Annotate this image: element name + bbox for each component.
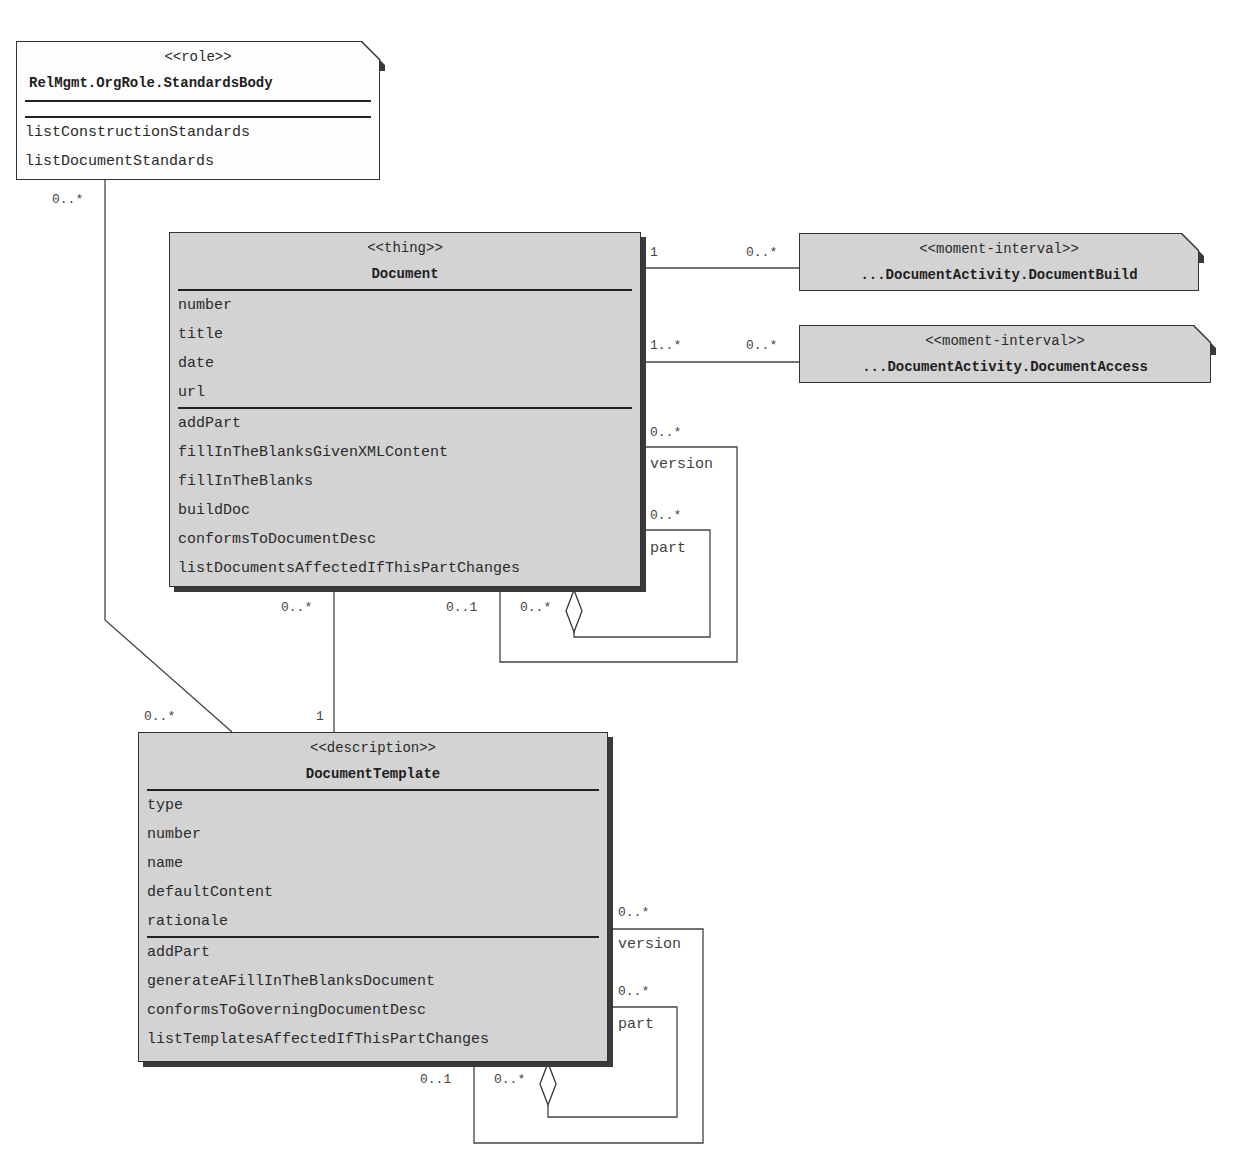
multiplicity-label: 1..* xyxy=(650,338,681,353)
attribute: name xyxy=(139,849,607,878)
operation: listDocumentsAffectedIfThisPartChanges xyxy=(170,554,640,583)
multiplicity-label: 0..* xyxy=(618,905,649,920)
multiplicity-label: 0..* xyxy=(520,600,551,615)
stereotype: <<moment-interval>> xyxy=(800,326,1210,354)
attribute: number xyxy=(170,291,640,320)
multiplicity-label: 0..* xyxy=(650,508,681,523)
class-name: DocumentTemplate xyxy=(139,761,607,789)
operation: fillInTheBlanks xyxy=(170,467,640,496)
class-name: ...DocumentActivity.DocumentBuild xyxy=(800,262,1198,290)
attribute: defaultContent xyxy=(139,878,607,907)
corner-shadow xyxy=(360,41,390,71)
class-document-template[interactable]: <<description>> DocumentTemplate type nu… xyxy=(138,732,608,1062)
operation: listTemplatesAffectedIfThisPartChanges xyxy=(139,1025,607,1054)
class-name: RelMgmt.OrgRole.StandardsBody xyxy=(17,70,379,98)
multiplicity-label: 0..* xyxy=(52,192,83,207)
multiplicity-label: 0..* xyxy=(144,709,175,724)
stereotype: <<thing>> xyxy=(170,233,640,261)
attribute: date xyxy=(170,349,640,378)
multiplicity-label: 1 xyxy=(650,245,658,260)
attribute: rationale xyxy=(139,907,607,936)
attribute: type xyxy=(139,791,607,820)
aggregation-diamond-icon xyxy=(540,1063,556,1105)
corner-shadow xyxy=(1180,233,1210,263)
stereotype: <<role>> xyxy=(17,42,379,70)
role-label: part xyxy=(618,1016,654,1033)
class-document-build[interactable]: <<moment-interval>> ...DocumentActivity.… xyxy=(799,233,1199,291)
multiplicity-label: 1 xyxy=(316,709,324,724)
class-standards-body[interactable]: <<role>> RelMgmt.OrgRole.StandardsBody l… xyxy=(16,41,380,180)
operation: fillInTheBlanksGivenXMLContent xyxy=(170,438,640,467)
operation: conformsToDocumentDesc xyxy=(170,525,640,554)
operation: addPart xyxy=(170,409,640,438)
operation: listDocumentStandards xyxy=(17,147,379,176)
operation: buildDoc xyxy=(170,496,640,525)
multiplicity-label: 0..* xyxy=(746,338,777,353)
aggregation-diamond-icon xyxy=(566,590,582,632)
stereotype: <<moment-interval>> xyxy=(800,234,1198,262)
role-label: version xyxy=(650,456,713,473)
operation: generateAFillInTheBlanksDocument xyxy=(139,967,607,996)
divider xyxy=(25,100,371,102)
multiplicity-label: 0..* xyxy=(618,984,649,999)
role-label: version xyxy=(618,936,681,953)
operation: listConstructionStandards xyxy=(17,118,379,147)
stereotype: <<description>> xyxy=(139,733,607,761)
multiplicity-label: 0..1 xyxy=(446,600,477,615)
corner-shadow xyxy=(1192,325,1222,355)
multiplicity-label: 0..* xyxy=(281,600,312,615)
class-document-access[interactable]: <<moment-interval>> ...DocumentActivity.… xyxy=(799,325,1211,383)
multiplicity-label: 0..1 xyxy=(420,1072,451,1087)
multiplicity-label: 0..* xyxy=(650,425,681,440)
operation: conformsToGoverningDocumentDesc xyxy=(139,996,607,1025)
attribute: url xyxy=(170,378,640,407)
operation: addPart xyxy=(139,938,607,967)
class-document[interactable]: <<thing>> Document number title date url… xyxy=(169,232,641,587)
class-name: Document xyxy=(170,261,640,289)
role-label: part xyxy=(650,540,686,557)
multiplicity-label: 0..* xyxy=(746,245,777,260)
attribute: title xyxy=(170,320,640,349)
multiplicity-label: 0..* xyxy=(494,1072,525,1087)
attribute: number xyxy=(139,820,607,849)
class-name: ...DocumentActivity.DocumentAccess xyxy=(800,354,1210,382)
